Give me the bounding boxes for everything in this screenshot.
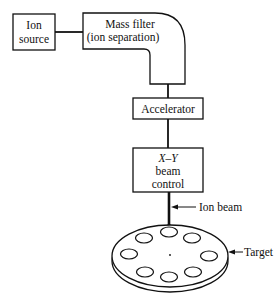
ion-source-label-line2: source bbox=[19, 33, 49, 45]
ion-beam-label: Ion beam bbox=[199, 201, 242, 213]
accelerator-label: Accelerator bbox=[141, 103, 195, 115]
target-label: Target bbox=[244, 246, 274, 259]
target-annotation: Target bbox=[228, 246, 274, 259]
ion-beam-annotation: Ion beam bbox=[171, 201, 242, 213]
accelerator-block: Accelerator bbox=[133, 98, 203, 119]
mass-filter-label-line1: Mass filter bbox=[105, 18, 155, 30]
arrow-left-icon bbox=[171, 205, 178, 210]
beam-control-label-line2: beam bbox=[156, 165, 181, 177]
arrow-left-icon bbox=[228, 250, 235, 255]
mass-filter-label-line2: (ion separation) bbox=[87, 31, 160, 44]
ion-implantation-diagram: Ion source Mass filter (ion separation) … bbox=[0, 0, 280, 307]
beam-control-label-line1: X–Y bbox=[157, 152, 179, 164]
beam-control-block: X–Y beam control bbox=[133, 148, 203, 192]
mass-filter-block: Mass filter (ion separation) bbox=[83, 13, 185, 84]
target-disk bbox=[112, 225, 228, 292]
beam-control-label-line3: control bbox=[152, 178, 185, 190]
ion-source-block: Ion source bbox=[13, 14, 55, 50]
ion-source-label-line1: Ion bbox=[26, 19, 42, 31]
disk-center-dot bbox=[169, 254, 171, 256]
